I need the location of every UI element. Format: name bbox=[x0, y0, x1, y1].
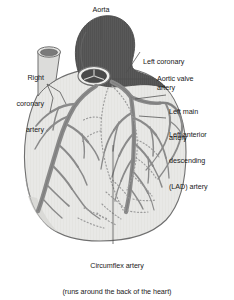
label-circumflex-artery: Circumflex artery (runs around the back … bbox=[17, 245, 217, 300]
label-lad-line1: Left anterior bbox=[169, 131, 234, 140]
label-lad-line3: (LAD) artery bbox=[169, 183, 234, 192]
label-right-coronary-line1: Right bbox=[0, 74, 44, 83]
label-circumflex-line1: Circumflex artery bbox=[17, 262, 217, 271]
label-right-coronary-line3: artery bbox=[0, 126, 44, 135]
label-right-coronary-line2: coronary bbox=[0, 100, 44, 109]
label-circumflex-line2: (runs around the back of the heart) bbox=[17, 288, 217, 297]
aortic-valve bbox=[78, 67, 110, 86]
label-right-coronary-artery: Right coronary artery bbox=[0, 57, 44, 152]
label-aortic-valve: Aortic valve bbox=[157, 75, 233, 84]
label-left-coronary-line1: Left coronary bbox=[143, 58, 233, 67]
label-aorta: Aorta bbox=[80, 6, 122, 15]
label-lad-line2: descending bbox=[169, 157, 234, 166]
label-lad-artery: Left anterior descending (LAD) artery bbox=[169, 114, 234, 209]
